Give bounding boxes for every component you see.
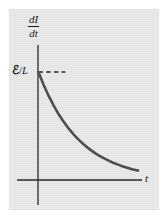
inductance-symbol: L — [22, 64, 28, 76]
y-axis-label-denominator: dt — [28, 27, 39, 39]
figure-container: dI dt ℰ/L t — [0, 0, 168, 219]
decay-curve — [39, 72, 139, 171]
x-axis-label: t — [145, 173, 148, 184]
plot-area — [0, 0, 168, 219]
y-axis-label-numerator: dI — [28, 14, 39, 27]
emf-symbol: ℰ — [12, 63, 19, 77]
y-axis-label: dI dt — [28, 14, 39, 39]
emf-over-l-label: ℰ/L — [12, 64, 28, 76]
